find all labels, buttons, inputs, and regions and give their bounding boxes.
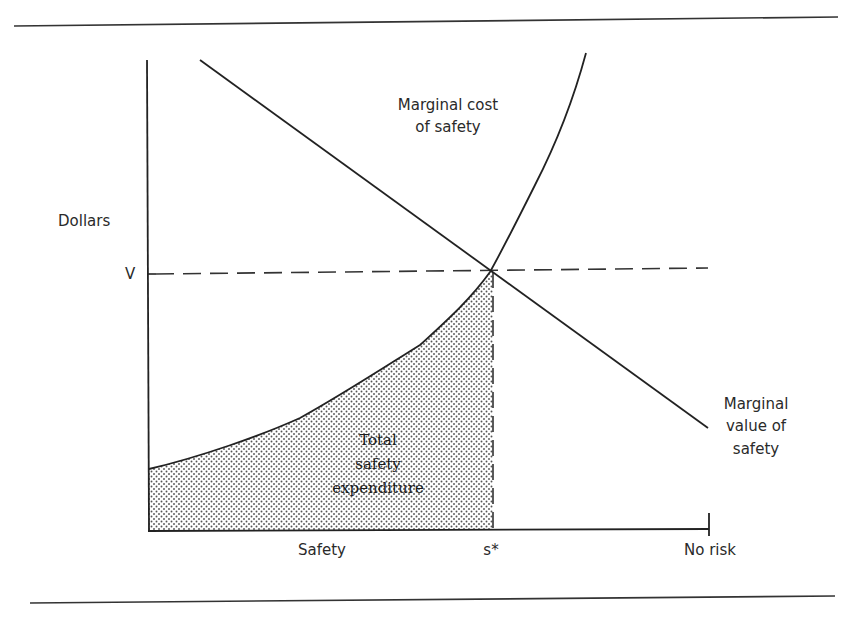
safety-economics-diagram bbox=[0, 0, 855, 617]
marginal-value-label-line1: Marginal bbox=[724, 394, 789, 415]
bottom-rule bbox=[30, 596, 835, 603]
marginal-cost-label-line1: Marginal cost bbox=[398, 95, 498, 116]
top-rule bbox=[14, 17, 838, 26]
marginal-value-label-line2: value of bbox=[726, 416, 786, 437]
v-tick-label: V bbox=[125, 264, 135, 285]
v-dashed-line bbox=[156, 268, 708, 274]
total-expenditure-label-line1: Total bbox=[359, 430, 397, 451]
y-axis-label: Dollars bbox=[58, 211, 110, 232]
no-risk-label: No risk bbox=[684, 540, 736, 561]
x-axis-label: Safety bbox=[298, 540, 346, 561]
total-expenditure-label-line3: expenditure bbox=[332, 478, 424, 499]
total-safety-expenditure-area bbox=[149, 272, 493, 530]
total-expenditure-label-line2: safety bbox=[355, 454, 401, 475]
s-star-label: s* bbox=[483, 540, 498, 561]
marginal-cost-label-line2: of safety bbox=[415, 117, 481, 138]
marginal-value-label-line3: safety bbox=[733, 439, 779, 460]
y-axis bbox=[147, 60, 149, 531]
